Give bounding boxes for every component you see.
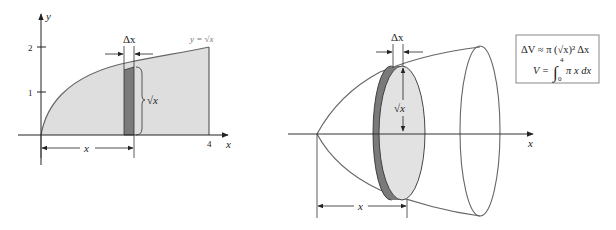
left-plot: 1 2 4 y x y = √x Δx √x x [18, 10, 231, 165]
base-ellipse [460, 46, 500, 216]
disk-delta-x-label: Δx [391, 31, 404, 43]
x-axis-label-3d: x [527, 137, 533, 149]
y-tick-label-2: 2 [28, 43, 33, 53]
right-solid: x √x Δx x [288, 31, 533, 218]
y-tick-label-1: 1 [28, 88, 33, 98]
curve-label: y = √x [189, 34, 214, 44]
x-axis-label: x [225, 138, 231, 150]
integrand: π x dx [566, 65, 591, 76]
figure-canvas: 1 2 4 y x y = √x Δx √x x x [0, 0, 616, 230]
integral-lower-limit: 0 [558, 75, 562, 83]
formula-delta-v: ΔV ≈ π (√x)² Δx [521, 44, 590, 56]
radius-label: √x [394, 102, 405, 114]
x-distance-label: x [83, 142, 89, 154]
x-tick-label-4: 4 [207, 139, 212, 149]
strip-rect [124, 67, 134, 135]
sqrt-x-label: √x [147, 94, 158, 106]
y-axis-label: y [45, 10, 51, 22]
integral-upper-limit: 4 [560, 56, 564, 64]
disk-x-distance-label: x [357, 200, 363, 212]
disk-face [379, 66, 425, 200]
delta-x-label: Δx [123, 33, 136, 45]
formula-v-lhs: V = [533, 65, 549, 76]
formula-box: ΔV ≈ π (√x)² Δx V = ∫ 4 0 π x dx [516, 35, 599, 83]
